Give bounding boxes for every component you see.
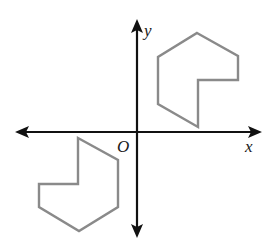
- origin-label: O: [117, 137, 129, 156]
- y-axis: [131, 19, 143, 238]
- x-axis-label: x: [244, 137, 253, 156]
- coordinate-plane: y x O: [0, 0, 280, 239]
- lower-left-polygon: [39, 138, 118, 231]
- x-axis: [15, 126, 262, 138]
- y-axis-label: y: [142, 21, 152, 40]
- upper-right-polygon: [158, 33, 238, 127]
